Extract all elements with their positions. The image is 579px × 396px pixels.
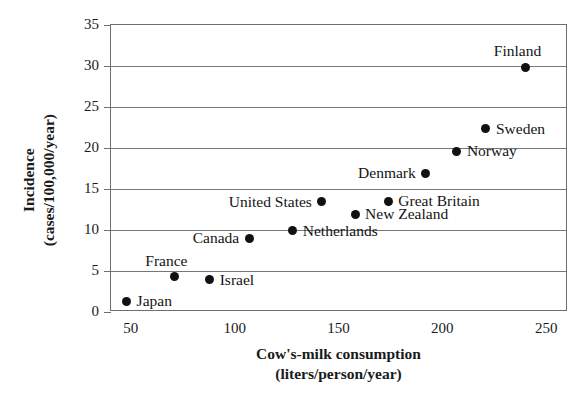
data-point-denmark: [421, 169, 430, 178]
data-point-new-zealand: [351, 210, 360, 219]
point-label-sweden: Sweden: [496, 121, 545, 137]
y-axis-title-line-2: (cases/100,000/year): [39, 55, 59, 305]
gridline-y: [111, 189, 566, 190]
y-tick-mark: [104, 189, 111, 190]
point-label-canada: Canada: [193, 230, 239, 246]
y-tick-mark: [104, 66, 111, 67]
y-tick-mark: [104, 25, 111, 26]
x-tick-label: 100: [223, 321, 246, 336]
x-axis-title-line-1: Cow's-milk consumption: [110, 344, 567, 364]
data-point-finland: [521, 63, 530, 72]
y-tick-label: 10: [84, 222, 99, 237]
gridline-y: [111, 271, 566, 272]
gridline-y: [111, 107, 566, 108]
y-tick-label: 25: [84, 99, 99, 114]
x-tick-label: 150: [327, 321, 350, 336]
gridline-y: [111, 66, 566, 67]
point-label-israel: Israel: [220, 272, 254, 288]
y-axis-title: Incidence (cases/100,000/year): [19, 55, 59, 305]
data-point-norway: [452, 147, 461, 156]
data-point-japan: [122, 297, 131, 306]
y-tick-mark: [104, 271, 111, 272]
x-tick-label: 200: [431, 321, 454, 336]
chart-figure: Incidence (cases/100,000/year) Cow's-mil…: [0, 0, 579, 396]
y-tick-mark: [104, 230, 111, 231]
point-label-france: France: [145, 252, 187, 268]
y-tick-mark: [104, 148, 111, 149]
y-tick-label: 35: [84, 17, 99, 32]
point-label-netherlands: Netherlands: [303, 223, 378, 239]
y-tick-mark: [104, 312, 111, 313]
point-label-finland: Finland: [494, 43, 541, 59]
point-label-united-states: United States: [229, 194, 312, 210]
data-point-france: [170, 272, 179, 281]
y-tick-label: 30: [84, 58, 99, 73]
y-tick-label: 0: [92, 304, 100, 319]
x-axis-title: Cow's-milk consumption (liters/person/ye…: [110, 344, 567, 384]
x-tick-label: 250: [535, 321, 558, 336]
y-tick-mark: [104, 107, 111, 108]
y-tick-label: 5: [92, 263, 100, 278]
y-axis-title-line-1: Incidence: [19, 55, 39, 305]
data-point-canada: [245, 234, 254, 243]
y-tick-label: 15: [84, 181, 99, 196]
point-label-great-britain: Great Britain: [398, 193, 479, 209]
point-label-norway: Norway: [467, 143, 517, 159]
x-tick-label: 50: [123, 321, 138, 336]
y-tick-label: 20: [84, 140, 99, 155]
point-label-japan: Japan: [137, 293, 172, 309]
data-point-great-britain: [384, 197, 393, 206]
point-label-denmark: Denmark: [358, 165, 416, 181]
x-axis-title-line-2: (liters/person/year): [110, 364, 567, 384]
